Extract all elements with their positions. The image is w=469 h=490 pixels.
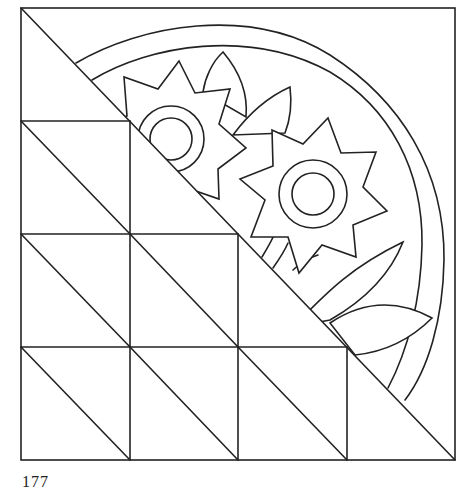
- sunflower-right-inner-ring: [292, 173, 334, 215]
- stem-2: [273, 243, 288, 268]
- stem-1: [262, 235, 274, 257]
- page-number: 177: [22, 474, 49, 490]
